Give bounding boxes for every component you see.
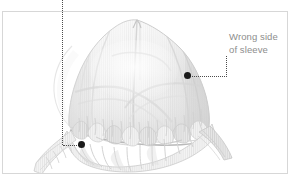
leader-line-sleeve-vertical — [226, 56, 227, 77]
leader-line-sleeve-horizontal — [189, 76, 227, 77]
callout-label-line1: Wrong side — [229, 30, 291, 43]
callout-label-line2: of sleeve — [229, 43, 291, 56]
leader-line-hem-vertical — [62, 0, 63, 145]
callout-marker-wrong-side — [184, 72, 191, 79]
callout-label-wrong-side-of-sleeve: Wrong side of sleeve — [229, 30, 291, 56]
diagram-canvas: Wrong side of sleeve — [0, 0, 297, 185]
callout-marker-hem — [78, 141, 85, 148]
